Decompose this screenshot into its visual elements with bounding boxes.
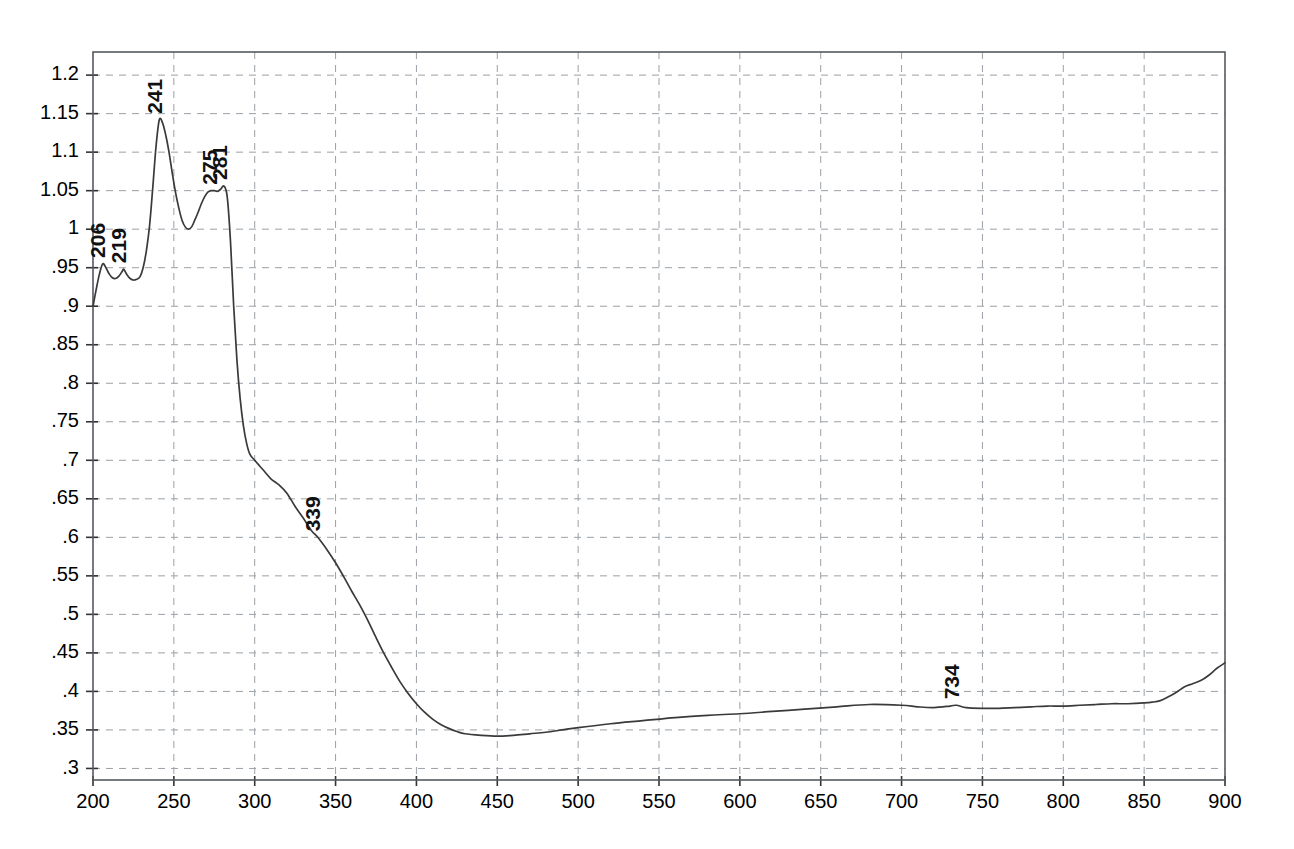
y-tick-label: .35	[51, 717, 79, 739]
peak-label: 281	[208, 145, 231, 180]
x-tick-label: 750	[966, 790, 999, 812]
x-tick-label: 300	[238, 790, 271, 812]
y-tick-label: .85	[51, 332, 79, 354]
y-tick-label: .55	[51, 563, 79, 585]
peak-label: 734	[940, 664, 963, 699]
y-tick-label: .9	[62, 294, 79, 316]
y-tick-label: .65	[51, 486, 79, 508]
x-tick-label: 450	[481, 790, 514, 812]
x-tick-label: 400	[400, 790, 433, 812]
y-tick-label: 1.2	[51, 62, 79, 84]
y-tick-labels: .3.35.4.45.5.55.6.65.7.75.8.85.9.9511.05…	[40, 62, 79, 777]
x-tick-label: 800	[1047, 790, 1080, 812]
x-tick-label: 850	[1127, 790, 1160, 812]
y-tick-label: .8	[62, 371, 79, 393]
x-tick-label: 350	[319, 790, 352, 812]
y-tick-label: .75	[51, 409, 79, 431]
y-tick-label: 1.1	[51, 139, 79, 161]
y-tick-label: .3	[62, 756, 79, 778]
x-tickmarks	[93, 776, 1225, 786]
y-tick-label: 1.05	[40, 178, 79, 200]
x-tick-label: 650	[804, 790, 837, 812]
y-tick-label: 1	[68, 216, 79, 238]
peak-label: 241	[143, 78, 166, 113]
x-tick-labels: 2002503003504004505005506006507007508008…	[76, 790, 1241, 812]
y-tick-label: .45	[51, 640, 79, 662]
peak-annotations: 206219241275281339734	[86, 78, 963, 699]
spectrum-chart: .3.35.4.45.5.55.6.65.7.75.8.85.9.9511.05…	[0, 0, 1294, 849]
x-tick-label: 500	[561, 790, 594, 812]
peak-label: 219	[107, 228, 130, 263]
x-tick-label: 550	[642, 790, 675, 812]
y-tick-label: .5	[62, 602, 79, 624]
peak-label: 206	[86, 223, 109, 258]
y-tick-label: .7	[62, 448, 79, 470]
x-gridlines	[174, 52, 1144, 780]
y-tick-label: 1.15	[40, 101, 79, 123]
x-tick-label: 600	[723, 790, 756, 812]
y-tick-label: .6	[62, 525, 79, 547]
y-tick-label: .95	[51, 255, 79, 277]
x-tick-label: 200	[76, 790, 109, 812]
y-tick-label: .4	[62, 679, 79, 701]
peak-label: 339	[301, 496, 324, 531]
x-tick-label: 900	[1208, 790, 1241, 812]
spectrum-svg: .3.35.4.45.5.55.6.65.7.75.8.85.9.9511.05…	[0, 0, 1294, 849]
y-tickmarks	[86, 75, 98, 768]
x-tick-label: 250	[157, 790, 190, 812]
x-tick-label: 700	[885, 790, 918, 812]
